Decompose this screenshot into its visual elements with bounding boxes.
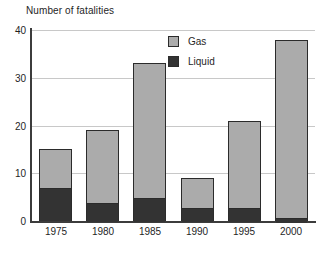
bar-segment-liquid — [87, 203, 118, 222]
chart-legend: GasLiquid — [168, 31, 215, 71]
bar-segment-gas — [87, 131, 118, 203]
gridline — [32, 173, 315, 174]
x-tick-label-1985: 1985 — [139, 226, 161, 237]
bar-segment-gas — [229, 122, 260, 208]
x-tick-label-2000: 2000 — [280, 226, 302, 237]
bar-1980 — [86, 130, 119, 221]
bar-segment-liquid — [182, 208, 213, 222]
gridline — [32, 221, 315, 222]
x-tick-label-1975: 1975 — [45, 226, 67, 237]
bar-segment-gas — [40, 150, 71, 188]
bar-segment-divider — [134, 198, 165, 199]
bar-segment-liquid — [40, 188, 71, 221]
bar-1995 — [228, 121, 261, 221]
bar-segment-divider — [276, 218, 307, 219]
bar-segment-liquid — [134, 198, 165, 222]
x-tick-label-1980: 1980 — [92, 226, 114, 237]
bar-1990 — [181, 178, 214, 221]
legend-swatch-liquid — [168, 56, 179, 67]
x-axis-ticks: 197519801985199019952000 — [32, 226, 315, 242]
legend-item-gas: Gas — [168, 31, 215, 51]
gridline — [32, 126, 315, 127]
bar-segment-divider — [182, 208, 213, 209]
bar-1985 — [133, 63, 166, 221]
y-axis-ticks: 010203040 — [2, 30, 26, 221]
y-tick-label: 20 — [4, 121, 26, 132]
bar-segment-gas — [182, 179, 213, 208]
y-tick-label: 0 — [4, 216, 26, 227]
y-tick-label: 30 — [4, 73, 26, 84]
bar-segment-liquid — [229, 208, 260, 222]
x-tick-label-1995: 1995 — [233, 226, 255, 237]
bar-segment-gas — [134, 64, 165, 198]
legend-label-gas: Gas — [188, 36, 206, 47]
bar-segment-gas — [276, 41, 307, 218]
legend-label-liquid: Liquid — [188, 56, 215, 67]
legend-item-liquid: Liquid — [168, 51, 215, 71]
bar-1975 — [39, 149, 72, 221]
gridline — [32, 78, 315, 79]
y-tick-label: 10 — [4, 168, 26, 179]
y-tick-label: 40 — [4, 25, 26, 36]
bar-segment-divider — [87, 203, 118, 204]
bar-segment-divider — [229, 208, 260, 209]
bar-2000 — [275, 40, 308, 221]
x-tick-label-1990: 1990 — [186, 226, 208, 237]
chart-title: Number of fatalities — [26, 5, 114, 16]
bar-segment-divider — [40, 188, 71, 189]
legend-swatch-gas — [168, 36, 179, 47]
bar-chart: Number of fatalities 010203040 197519801… — [0, 0, 318, 253]
